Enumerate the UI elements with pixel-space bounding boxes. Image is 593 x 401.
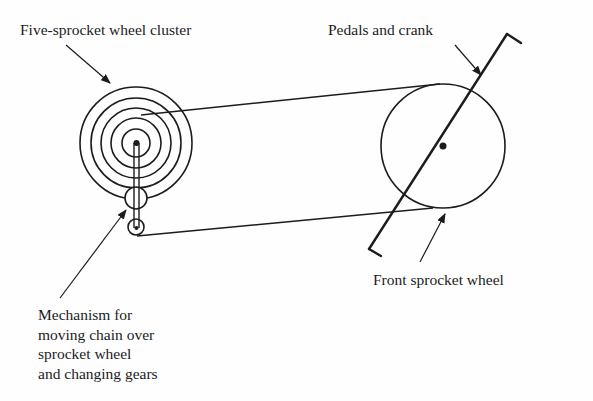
diagram-canvas: Five-sprocket wheel cluster Pedals and c… [0, 0, 593, 401]
label-pedals-and-crank: Pedals and crank [328, 20, 433, 40]
arrow-front-wheel [420, 214, 445, 262]
label-line: sprocket wheel [38, 344, 158, 364]
label-sprocket-cluster: Five-sprocket wheel cluster [20, 20, 191, 40]
label-gear-mechanism: Mechanism for moving chain over sprocket… [38, 305, 158, 383]
arrow-pedals [455, 45, 481, 75]
arrow-cluster [66, 45, 110, 83]
label-line: and changing gears [38, 364, 158, 384]
arrow-mechanism [60, 210, 126, 298]
label-front-sprocket-wheel: Front sprocket wheel [373, 270, 504, 290]
label-line: moving chain over [38, 325, 158, 345]
crank-axle [440, 143, 447, 150]
label-line: Mechanism for [38, 305, 158, 325]
